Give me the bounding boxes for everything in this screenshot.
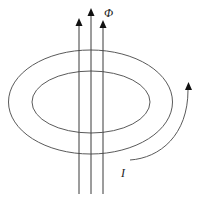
current-arrow (130, 82, 192, 160)
flux-line-right (100, 20, 107, 194)
flux-line-center (88, 8, 95, 194)
arrow-up-icon (76, 18, 83, 26)
current-label: I (120, 166, 126, 180)
flux-ring-diagram: Φ I (0, 0, 199, 200)
flux-line-left (76, 18, 83, 194)
flux-label: Φ (104, 6, 113, 20)
arrow-up-icon (88, 8, 95, 16)
arrow-up-icon (185, 82, 192, 90)
arrow-up-icon (100, 20, 107, 28)
